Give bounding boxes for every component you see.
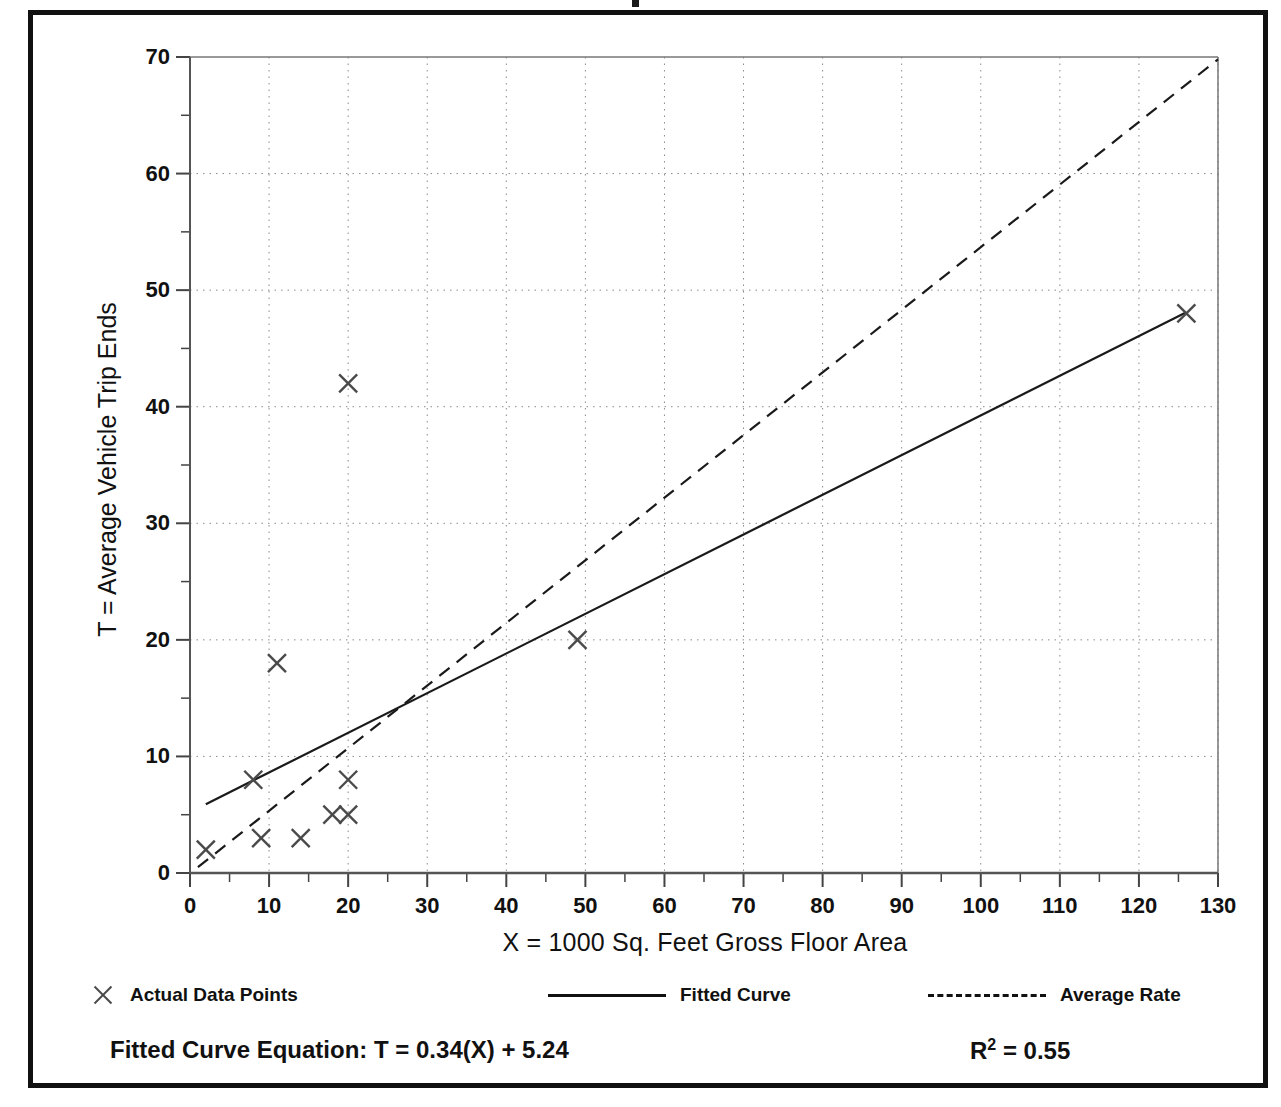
x-axis-title: X = 1000 Sq. Feet Gross Floor Area bbox=[190, 928, 1220, 957]
chart-figure: 706050403020100 010203040506070809010011… bbox=[0, 0, 1281, 1107]
y-tick-label: 70 bbox=[124, 46, 170, 68]
y-tick-label: 30 bbox=[124, 512, 170, 534]
x-marker-icon bbox=[90, 982, 116, 1008]
legend-item-actual-data-points: Actual Data Points bbox=[90, 978, 298, 1012]
fitted-curve-equation: Fitted Curve Equation: T = 0.34(X) + 5.2… bbox=[110, 1036, 569, 1064]
y-tick-label: 50 bbox=[124, 279, 170, 301]
y-tick-label: 0 bbox=[124, 862, 170, 884]
footer-row: Fitted Curve Equation: T = 0.34(X) + 5.2… bbox=[90, 1036, 1230, 1076]
r-squared-exponent: 2 bbox=[987, 1036, 996, 1053]
y-axis-title: T = Average Vehicle Trip Ends bbox=[93, 150, 122, 790]
y-tick-label: 40 bbox=[124, 396, 170, 418]
solid-line-icon bbox=[548, 994, 666, 997]
dashed-line-icon bbox=[928, 994, 1046, 997]
x-tick-label: 100 bbox=[951, 895, 1011, 917]
chart-legend: Actual Data Points Fitted Curve Average … bbox=[90, 978, 1230, 1012]
y-tick-label: 60 bbox=[124, 163, 170, 185]
x-tick-label: 10 bbox=[239, 895, 299, 917]
data-point-markers bbox=[197, 304, 1196, 858]
legend-label: Fitted Curve bbox=[680, 984, 791, 1006]
x-tick-label: 80 bbox=[793, 895, 853, 917]
r-squared-number: = 0.55 bbox=[996, 1037, 1070, 1064]
x-tick-label: 90 bbox=[872, 895, 932, 917]
x-tick-label: 70 bbox=[714, 895, 774, 917]
legend-item-fitted-curve: Fitted Curve bbox=[548, 978, 791, 1012]
axis-ticks bbox=[176, 57, 1218, 887]
y-tick-label: 10 bbox=[124, 745, 170, 767]
legend-item-average-rate: Average Rate bbox=[928, 978, 1181, 1012]
x-tick-label: 50 bbox=[555, 895, 615, 917]
r-squared-value: R2 = 0.55 bbox=[970, 1036, 1070, 1065]
y-tick-label: 20 bbox=[124, 629, 170, 651]
r-squared-prefix: R bbox=[970, 1037, 987, 1064]
x-tick-label: 120 bbox=[1109, 895, 1169, 917]
x-tick-label: 110 bbox=[1030, 895, 1090, 917]
x-tick-label: 20 bbox=[318, 895, 378, 917]
x-tick-label: 30 bbox=[397, 895, 457, 917]
x-tick-label: 40 bbox=[476, 895, 536, 917]
legend-label: Actual Data Points bbox=[130, 984, 298, 1006]
x-tick-label: 130 bbox=[1188, 895, 1248, 917]
legend-label: Average Rate bbox=[1060, 984, 1181, 1006]
x-tick-label: 0 bbox=[160, 895, 220, 917]
series-lines bbox=[198, 59, 1218, 867]
x-tick-label: 60 bbox=[634, 895, 694, 917]
